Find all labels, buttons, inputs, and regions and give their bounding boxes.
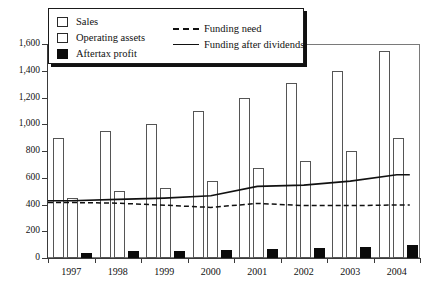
dashed-line-icon xyxy=(173,24,199,34)
funding-after-dividends-line xyxy=(48,175,410,201)
filled-square-icon xyxy=(57,49,68,59)
open-square-icon xyxy=(57,33,68,43)
legend-column-lines: Funding need Funding after dividends xyxy=(173,21,304,53)
legend-item-operating-assets: Operating assets xyxy=(57,30,145,46)
legend-item-aftertax-profit: Aftertax profit xyxy=(57,46,145,62)
chart-legend: Sales Operating assets Aftertax profit F… xyxy=(48,8,304,64)
legend-item-funding-need: Funding need xyxy=(173,21,304,37)
legend-label-funding-after-dividends: Funding after dividends xyxy=(204,39,304,51)
legend-label-operating-assets: Operating assets xyxy=(76,32,145,44)
funding-need-line xyxy=(48,203,410,208)
legend-item-funding-after-dividends: Funding after dividends xyxy=(173,37,304,53)
legend-label-aftertax-profit: Aftertax profit xyxy=(76,48,137,60)
open-square-icon xyxy=(57,17,68,27)
legend-label-funding-need: Funding need xyxy=(204,23,261,35)
legend-item-sales: Sales xyxy=(57,14,145,30)
legend-label-sales: Sales xyxy=(76,16,98,28)
chart-figure: 02004006008001,0001,2001,4001,600 199719… xyxy=(0,0,431,291)
legend-column-bars: Sales Operating assets Aftertax profit xyxy=(57,14,145,62)
solid-line-icon xyxy=(173,40,199,50)
